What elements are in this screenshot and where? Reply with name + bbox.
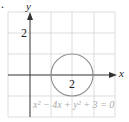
y-tick-label: 2 <box>21 26 27 41</box>
bullet: . <box>1 0 4 12</box>
y-axis-arrow-icon <box>27 12 33 20</box>
equation-label: x² − 4x + y² + 3 = 0 <box>33 99 114 110</box>
y-axis-label: y <box>26 0 31 12</box>
x-tick-label: 2 <box>69 77 75 92</box>
x-axis-label: x <box>119 67 124 79</box>
x-axis-arrow-icon <box>109 72 117 78</box>
